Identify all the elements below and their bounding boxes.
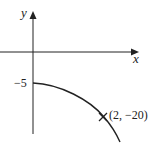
y-intercept-label: −5	[14, 76, 27, 90]
point-label: (2, −20)	[109, 108, 148, 122]
x-axis-label: x	[132, 51, 139, 66]
graph: y x −5 (2, −20)	[0, 0, 161, 150]
y-axis-label: y	[19, 5, 27, 20]
point-marker-cross-icon	[99, 113, 107, 121]
curve	[33, 83, 120, 142]
y-axis-arrow-icon	[30, 11, 37, 19]
